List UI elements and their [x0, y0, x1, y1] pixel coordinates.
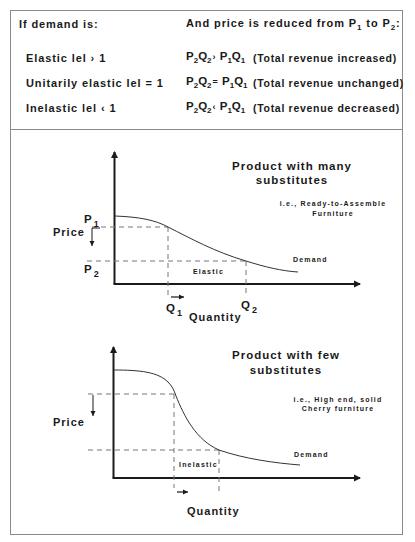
y-axis-label: Price: [53, 226, 85, 238]
diagram-title-line1: Product with many: [232, 160, 352, 172]
p2-sub: 2: [94, 269, 99, 279]
p1-symbol: P: [84, 213, 92, 225]
q2-symbol: Q: [241, 299, 250, 311]
y-axis-label: Price: [53, 416, 85, 428]
x-axis-label: Quantity: [189, 311, 242, 323]
demand-curve-elastic: [115, 216, 298, 272]
example-line2: Cherry furniture: [283, 405, 393, 412]
x-axis-label: Quantity: [187, 505, 240, 517]
example-line2: Furniture: [278, 210, 388, 217]
example-line1: i.e., Ready-to-Assemble: [278, 200, 388, 207]
q2-sub: 2: [252, 305, 257, 315]
diagram-title-line2: substitutes: [232, 174, 352, 186]
q1-label: Q1: [166, 302, 182, 314]
diagram-title-line1: Product with few: [226, 349, 346, 361]
curve-label: Demand: [294, 451, 329, 458]
p1-sub: 1: [94, 219, 99, 229]
example-line1: i.e., High end, solid: [283, 396, 393, 403]
p2-label: P2: [84, 263, 99, 275]
q1-symbol: Q: [166, 302, 175, 314]
region-label: Elastic: [193, 268, 224, 275]
p1-label: P1: [84, 213, 99, 225]
curve-label: Demand: [293, 256, 328, 263]
demand-curve-inelastic: [114, 370, 300, 465]
p2-symbol: P: [84, 263, 92, 275]
diagram-title-line2: substitutes: [226, 364, 346, 376]
q1-sub: 1: [177, 308, 182, 318]
q2-label: Q2: [241, 299, 257, 311]
region-label: Inelastic: [179, 461, 218, 468]
